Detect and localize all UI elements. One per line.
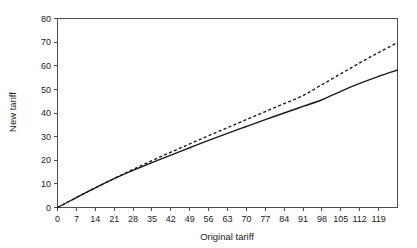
x-tick-label: 49 (185, 214, 195, 224)
x-tick-label: 63 (222, 214, 232, 224)
x-tick-label: 70 (241, 214, 251, 224)
y-tick-label: 20 (41, 155, 51, 165)
x-tick-label: 14 (90, 214, 100, 224)
x-axis-title: Original tariff (200, 231, 254, 242)
x-tick-label: 42 (166, 214, 176, 224)
y-tick-label: 50 (41, 85, 51, 95)
y-tick-label: 30 (41, 132, 51, 142)
x-tick-label: 28 (128, 214, 138, 224)
x-tick-label: 91 (298, 214, 308, 224)
x-tick-label: 77 (260, 214, 270, 224)
y-tick-label: 80 (41, 14, 51, 24)
x-tick-label: 21 (109, 214, 119, 224)
x-tick-label: 112 (353, 214, 367, 224)
y-tick-label: 40 (41, 108, 51, 118)
y-tick-label: 0 (46, 203, 51, 213)
y-tick-label: 10 (41, 179, 51, 189)
x-tick-label: 7 (74, 214, 79, 224)
x-tick-label: 35 (147, 214, 157, 224)
y-axis-title: New tariff (7, 92, 18, 132)
x-tick-label: 105 (333, 214, 348, 224)
x-tick-label: 56 (204, 214, 214, 224)
y-tick-label: 60 (41, 61, 51, 71)
x-tick-label: 84 (279, 214, 289, 224)
y-tick-label: 70 (41, 37, 51, 47)
chart-figure: 01020304050607080 0714212835424956637077… (0, 0, 417, 248)
y-axis-tick-labels: 01020304050607080 (41, 14, 51, 213)
x-tick-label: 98 (317, 214, 327, 224)
x-tick-label: 119 (371, 214, 385, 224)
x-tick-label: 0 (55, 214, 60, 224)
tariff-line-chart: 01020304050607080 0714212835424956637077… (0, 0, 417, 248)
